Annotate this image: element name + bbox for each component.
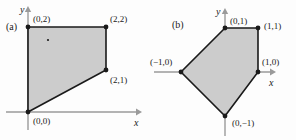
panel-b-label-0-1: (0,1)	[230, 17, 247, 26]
panel-a-label-0-0: (0,0)	[33, 117, 50, 126]
panel-b-label-n1-0: (−1,0)	[150, 58, 172, 67]
panel-a-label-2-2: (2,2)	[110, 15, 127, 24]
panel-a-label-0-2: (0,2)	[33, 15, 50, 24]
panel-a-vertex-0-2	[26, 25, 31, 30]
panel-a-tag: (a)	[6, 22, 17, 32]
panel-a: (a) y x (0,2) (2,2) (2,1) (0,0)	[0, 0, 148, 140]
panel-a-vertex-2-1	[104, 68, 109, 73]
panel-a-x-axis-label: x	[134, 118, 138, 128]
panel-a-region	[28, 27, 106, 112]
panel-b-vertex-n1-0	[179, 70, 184, 75]
panel-b-x-axis-label: x	[269, 78, 273, 88]
panel-b-vertex-1-1	[256, 26, 261, 31]
panel-b-vertex-0-n1	[223, 114, 228, 119]
panel-a-interior-point	[47, 39, 49, 41]
panel-b-region	[181, 28, 258, 116]
panel-b-tag: (b)	[172, 20, 184, 30]
panel-b-vertex-1-0	[256, 70, 261, 75]
panel-a-vertex-2-2	[104, 25, 109, 30]
panel-a-label-2-1: (2,1)	[110, 76, 127, 85]
panel-b-y-axis-label: y	[216, 7, 220, 17]
figure-container: (a) y x (0,2) (2,2) (2,1) (0,0)	[0, 0, 296, 140]
panel-b: (b) y x (0,1) (1,1) (1,0) (−1,0) (0,−1)	[148, 0, 296, 140]
panel-a-y-axis-label: y	[20, 5, 24, 15]
panel-b-vertex-0-1	[223, 26, 228, 31]
panel-b-label-0-n1: (0,−1)	[232, 119, 254, 128]
panel-a-vertex-0-0	[26, 110, 31, 115]
panel-b-label-1-1: (1,1)	[264, 22, 281, 31]
panel-b-label-1-0: (1,0)	[262, 58, 279, 67]
